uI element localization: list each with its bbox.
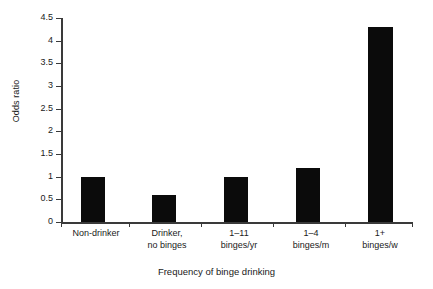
x-tick-0 xyxy=(61,222,62,227)
x-tick-1 xyxy=(129,222,130,227)
y-axis-line xyxy=(61,18,63,223)
y-tick-label-7: 3.5 xyxy=(40,57,53,67)
bar-1-plus-binges-w xyxy=(368,27,393,222)
y-tick-9: 4.5 xyxy=(56,18,61,19)
bar-1-4-binges-m xyxy=(296,168,320,222)
y-tick-4: 2 xyxy=(56,131,61,132)
y-axis-title: Odds ratio xyxy=(11,61,21,141)
x-category-label-2: 1–11 binges/yr xyxy=(199,228,279,251)
bar-drinker-no-binges xyxy=(152,195,176,222)
x-category-label-4: 1+ binges/w xyxy=(340,228,420,251)
y-tick-label-8: 4 xyxy=(48,35,53,45)
y-tick-label-6: 3 xyxy=(48,80,53,90)
y-tick-label-1: 0.5 xyxy=(40,193,53,203)
y-tick-label-9: 4.5 xyxy=(40,12,53,22)
y-tick-8: 4 xyxy=(56,41,61,42)
bar-chart-figure: Odds ratio 0 0.5 1 1.5 2 2.5 3 3.5 4 xyxy=(0,0,433,289)
y-tick-3: 1.5 xyxy=(56,154,61,155)
plot-area: 0 0.5 1 1.5 2 2.5 3 3.5 4 4.5 xyxy=(61,18,412,222)
x-tick-4 xyxy=(345,222,346,227)
y-tick-1: 0.5 xyxy=(56,199,61,200)
y-tick-6: 3 xyxy=(56,86,61,87)
y-tick-label-2: 1 xyxy=(48,171,53,181)
x-category-label-3: 1–4 binges/m xyxy=(271,228,351,251)
x-tick-2 xyxy=(201,222,202,227)
x-category-label-1: Drinker, no binges xyxy=(127,228,207,251)
y-tick-label-0: 0 xyxy=(48,216,53,226)
y-tick-5: 2.5 xyxy=(56,109,61,110)
x-tick-5 xyxy=(412,222,413,227)
y-tick-7: 3.5 xyxy=(56,63,61,64)
bar-1-11-binges-yr xyxy=(224,177,248,222)
y-tick-label-5: 2.5 xyxy=(40,103,53,113)
x-axis-title: Frequency of binge drinking xyxy=(0,266,433,277)
y-tick-label-3: 1.5 xyxy=(40,148,53,158)
y-tick-2: 1 xyxy=(56,177,61,178)
x-axis-line xyxy=(61,222,413,224)
x-category-label-0: Non-drinker xyxy=(56,228,136,240)
x-tick-3 xyxy=(273,222,274,227)
bar-non-drinker xyxy=(81,177,105,222)
y-tick-label-4: 2 xyxy=(48,125,53,135)
